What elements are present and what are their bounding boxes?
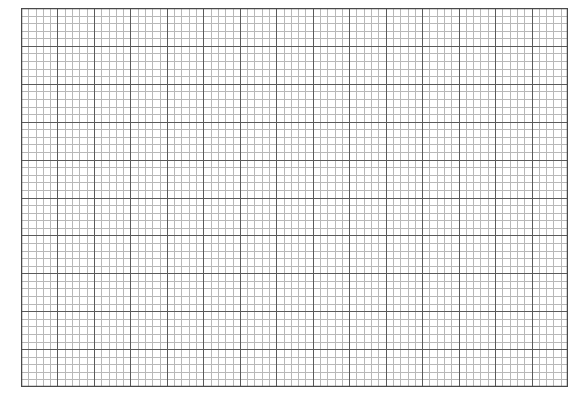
graph-paper-grid	[21, 8, 568, 387]
grid-background	[21, 8, 568, 387]
grid-canvas	[21, 8, 568, 387]
